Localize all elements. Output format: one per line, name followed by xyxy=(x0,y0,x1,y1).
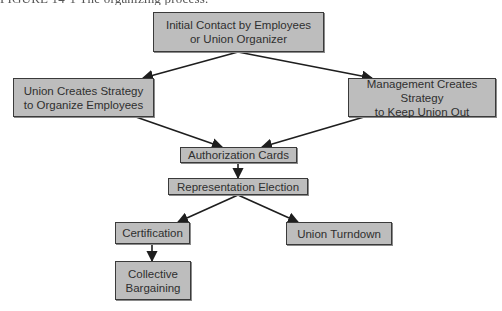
node-label: Management Creates Strategy to Keep Unio… xyxy=(353,77,491,119)
arrow-election-to-turndown xyxy=(238,195,298,222)
node-certification: Certification xyxy=(115,222,190,244)
node-label: Union Creates Strategy to Organize Emplo… xyxy=(24,84,144,112)
node-label: Initial Contact by Employees or Union Or… xyxy=(166,18,311,46)
node-label: Union Turndown xyxy=(297,227,381,241)
node-union-turndown: Union Turndown xyxy=(286,222,392,245)
arrow-initial-to-management xyxy=(238,52,372,78)
node-collective-bargaining: Collective Bargaining xyxy=(115,261,191,300)
arrow-election-to-certification xyxy=(178,195,238,222)
node-label: Certification xyxy=(122,226,183,240)
node-management-creates-strategy: Management Creates Strategy to Keep Unio… xyxy=(348,78,496,117)
node-representation-election: Representation Election xyxy=(168,178,308,195)
node-label: Collective Bargaining xyxy=(126,267,181,295)
arrow-management-to-auth xyxy=(262,117,364,147)
node-label: Authorization Cards xyxy=(188,148,289,162)
node-authorization-cards: Authorization Cards xyxy=(180,147,297,163)
arrow-initial-to-union xyxy=(143,52,238,78)
node-initial-contact: Initial Contact by Employees or Union Or… xyxy=(153,12,324,52)
node-label: Representation Election xyxy=(177,180,299,194)
arrow-union-to-auth xyxy=(136,117,222,147)
node-union-creates-strategy: Union Creates Strategy to Organize Emplo… xyxy=(13,78,154,117)
